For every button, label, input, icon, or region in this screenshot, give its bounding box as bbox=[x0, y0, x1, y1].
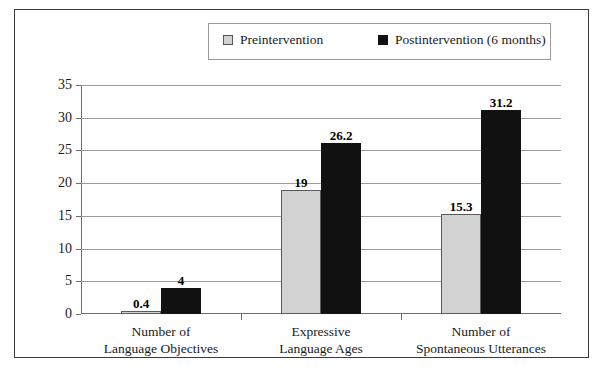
bar-value-label: 26.2 bbox=[330, 129, 353, 142]
category-label: Number ofLanguage Objectives bbox=[104, 323, 218, 358]
category-label-line: Language Ages bbox=[279, 340, 363, 357]
bar-value-label: 15.3 bbox=[450, 200, 473, 213]
y-tick-label: 35 bbox=[58, 78, 72, 92]
y-tick-mark bbox=[76, 118, 81, 119]
legend-item-preintervention: Preintervention bbox=[223, 33, 323, 47]
legend-item-postintervention: Postintervention (6 months) bbox=[378, 33, 546, 47]
category-label: Number ofSpontaneous Utterances bbox=[416, 323, 546, 358]
y-tick-mark bbox=[76, 216, 81, 217]
y-tick-mark bbox=[76, 85, 81, 86]
legend-swatch-postintervention-icon bbox=[378, 35, 388, 45]
legend-label-preintervention: Preintervention bbox=[240, 33, 323, 47]
y-tick-label: 10 bbox=[58, 242, 72, 256]
y-tick-mark bbox=[76, 314, 81, 315]
y-tick-mark bbox=[76, 281, 81, 282]
category-tick bbox=[401, 314, 402, 320]
legend-swatch-preintervention-icon bbox=[223, 35, 233, 45]
bar-value-label: 4 bbox=[178, 274, 185, 287]
bar-value-label: 19 bbox=[295, 176, 308, 189]
bar-postintervention: 31.2 bbox=[481, 110, 521, 314]
category-label-line: Number of bbox=[416, 323, 546, 340]
category-label-line: Spontaneous Utterances bbox=[416, 340, 546, 357]
bar-preintervention: 0.4 bbox=[121, 311, 161, 314]
category-tick bbox=[241, 314, 242, 320]
y-tick-mark bbox=[76, 150, 81, 151]
category-label: ExpressiveLanguage Ages bbox=[279, 323, 363, 358]
legend-label-postintervention: Postintervention (6 months) bbox=[395, 33, 546, 47]
plot-area: 05101520253035 0.441926.215.331.2 Number… bbox=[81, 85, 561, 314]
y-tick-mark bbox=[76, 183, 81, 184]
y-tick-mark bbox=[76, 249, 81, 250]
gridline bbox=[81, 85, 561, 86]
bar-postintervention: 4 bbox=[161, 288, 201, 314]
category-label-line: Number of bbox=[104, 323, 218, 340]
y-tick-label: 5 bbox=[65, 274, 72, 288]
bar-value-label: 0.4 bbox=[133, 297, 149, 310]
y-tick-label: 15 bbox=[58, 209, 72, 223]
y-tick-label: 25 bbox=[58, 143, 72, 157]
bar-value-label: 31.2 bbox=[490, 96, 513, 109]
bar-preintervention: 19 bbox=[281, 190, 321, 314]
chart-figure: Preintervention Postintervention (6 mont… bbox=[14, 9, 589, 358]
y-tick-label: 30 bbox=[58, 111, 72, 125]
category-label-line: Expressive bbox=[279, 323, 363, 340]
y-tick-label: 0 bbox=[65, 307, 72, 321]
y-tick-label: 20 bbox=[58, 176, 72, 190]
bar-postintervention: 26.2 bbox=[321, 143, 361, 314]
category-label-line: Language Objectives bbox=[104, 340, 218, 357]
bar-preintervention: 15.3 bbox=[441, 214, 481, 314]
chart-legend: Preintervention Postintervention (6 mont… bbox=[208, 23, 551, 60]
